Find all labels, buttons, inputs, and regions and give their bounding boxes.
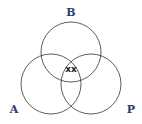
venn-diagram: B A P xx (0, 0, 142, 124)
circle-p (61, 54, 121, 114)
label-a: A (9, 103, 19, 116)
label-b: B (66, 6, 75, 19)
circle-a (21, 54, 81, 114)
x-marks: xx (65, 64, 77, 74)
label-p: P (127, 103, 135, 116)
